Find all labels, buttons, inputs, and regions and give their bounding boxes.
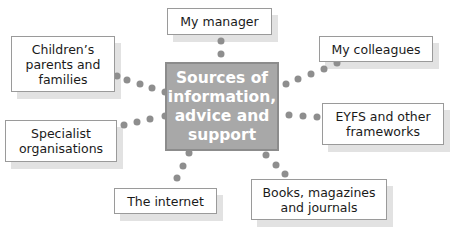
node-internet: The internet [114,188,217,214]
node-specialist: Specialist organisations [5,120,117,162]
central-node: Sources of information, advice and suppo… [165,62,279,151]
central-node-label: Sources of information, advice and suppo… [168,69,276,145]
node-label: My colleagues [331,42,420,57]
node-label: My manager [180,14,258,29]
node-label: The internet [127,194,204,209]
node-childrens-parents: Children’s parents and families [11,36,115,92]
node-eyfs: EYFS and other frameworks [322,103,444,145]
node-my-manager: My manager [167,8,272,35]
node-label: Specialist organisations [19,126,103,156]
node-label: Books, magazines and journals [262,185,375,215]
node-label: EYFS and other frameworks [335,109,430,139]
node-my-colleagues: My colleagues [319,36,433,62]
node-label: Children’s parents and families [26,42,101,87]
node-books: Books, magazines and journals [251,179,387,220]
